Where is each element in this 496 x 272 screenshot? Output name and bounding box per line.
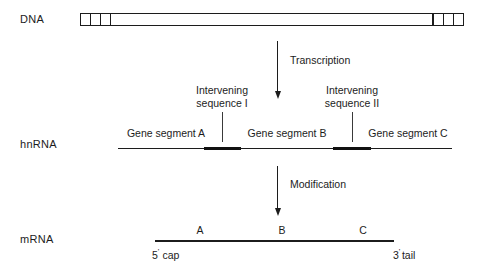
transcription-arrow-shaft [277, 41, 278, 93]
mrna-three-prime-tail: 3'tail [393, 247, 415, 261]
transcription-arrow-head [275, 91, 281, 99]
hnrna-segment-b-label: Gene segment B [248, 127, 327, 139]
modification-arrow-head [275, 208, 281, 216]
modification-arrow-label: Modification [290, 178, 346, 190]
mrna-segment-b-label: B [278, 224, 285, 236]
dna-right-box-3 [453, 13, 464, 26]
three-prime-word: tail [402, 249, 415, 261]
intervening-sequence-2-line1: Intervening [326, 84, 378, 96]
dna-row-label: DNA [20, 13, 44, 25]
intervening-sequence-2-line2: sequence II [325, 97, 379, 109]
transcription-arrow-label: Transcription [290, 54, 350, 66]
mrna-strand [155, 240, 394, 242]
hnrna-segment-c-label: Gene segment C [368, 127, 447, 139]
hnrna-strand-exon-b [239, 148, 335, 150]
intervening-sequence-1-line1: Intervening [196, 84, 248, 96]
intervening-sequence-1-line2: sequence I [196, 97, 247, 109]
mrna-segment-a-label: A [196, 224, 203, 236]
modification-arrow-shaft [277, 166, 278, 210]
five-prime-word: cap [162, 249, 179, 261]
diagram-canvas: DNA Transcription Intervening sequence I… [0, 0, 496, 272]
hnrna-strand-exon-a [118, 148, 206, 150]
hnrna-strand-intron-2 [333, 147, 371, 151]
hnrna-strand-intron-1 [204, 147, 241, 151]
hnrna-row-label: hnRNA [20, 138, 57, 150]
five-prime-mark: ' [158, 247, 160, 256]
intervening-sequence-1-tick [222, 112, 223, 142]
dna-left-box-3 [100, 13, 111, 26]
hnrna-strand-exon-c [369, 148, 452, 150]
mrna-segment-c-label: C [359, 224, 367, 236]
dna-duplex-bar [110, 13, 433, 26]
mrna-row-label: mRNA [20, 233, 54, 245]
intervening-sequence-2-tick [352, 112, 353, 142]
mrna-five-prime-cap: 5'cap [152, 247, 179, 261]
three-prime-mark: ' [399, 247, 401, 256]
hnrna-segment-a-label: Gene segment A [127, 127, 205, 139]
